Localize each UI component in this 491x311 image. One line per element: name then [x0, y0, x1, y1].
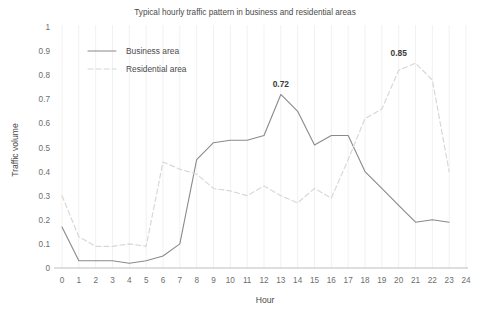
legend-label: Business area — [126, 46, 179, 56]
x-tick-label: 19 — [377, 276, 387, 285]
x-tick-label: 6 — [161, 276, 166, 285]
x-tick-label: 3 — [110, 276, 115, 285]
x-tick-label: 16 — [327, 276, 337, 285]
y-tick-label: 0 — [45, 264, 50, 273]
x-tick-label: 4 — [127, 276, 132, 285]
y-tick-label: 0.5 — [39, 144, 51, 153]
series-lines — [62, 63, 449, 263]
x-tick-label: 17 — [344, 276, 354, 285]
x-tick-label: 10 — [226, 276, 236, 285]
traffic-line-chart: Typical hourly traffic pattern in busine… — [0, 0, 491, 311]
legend-label: Residential area — [126, 64, 187, 74]
y-tick-label: 0.8 — [39, 71, 51, 80]
x-tick-label: 1 — [77, 276, 82, 285]
series-line-business-area — [62, 94, 449, 263]
y-tick-label: 1 — [45, 23, 50, 32]
chart-title: Typical hourly traffic pattern in busine… — [134, 8, 356, 17]
x-axis-ticks: 0123456789101112131415161718192021222324 — [60, 276, 471, 285]
x-tick-label: 9 — [211, 276, 216, 285]
vertical-gridlines — [62, 25, 466, 268]
data-point-annotation: 0.85 — [391, 48, 408, 58]
y-tick-label: 0.7 — [39, 95, 51, 104]
y-tick-label: 0.2 — [39, 216, 51, 225]
data-annotations: 0.720.85 — [273, 48, 407, 89]
y-axis-label: Traffic volume — [10, 123, 20, 177]
x-tick-label: 14 — [293, 276, 303, 285]
x-tick-label: 21 — [411, 276, 421, 285]
x-tick-label: 8 — [194, 276, 199, 285]
y-tick-label: 0.3 — [39, 192, 51, 201]
y-axis-ticks: 00.10.20.30.40.50.60.70.80.91 — [39, 23, 51, 273]
x-tick-label: 7 — [178, 276, 183, 285]
data-point-annotation: 0.72 — [273, 79, 290, 89]
x-tick-label: 11 — [243, 276, 252, 285]
x-tick-label: 24 — [461, 276, 471, 285]
chart-legend: Business areaResidential area — [88, 46, 187, 74]
x-tick-label: 5 — [144, 276, 149, 285]
x-tick-label: 13 — [276, 276, 286, 285]
x-tick-label: 12 — [259, 276, 269, 285]
x-tick-label: 18 — [360, 276, 370, 285]
x-tick-label: 20 — [394, 276, 404, 285]
x-tick-label: 22 — [428, 276, 438, 285]
x-tick-label: 15 — [310, 276, 320, 285]
x-axis-label: Hour — [256, 295, 275, 305]
x-tick-label: 0 — [60, 276, 65, 285]
y-tick-label: 0.9 — [39, 47, 51, 56]
series-line-residential-area — [62, 63, 449, 246]
y-tick-label: 0.1 — [39, 240, 51, 249]
chart-container: Typical hourly traffic pattern in busine… — [0, 0, 491, 311]
x-tick-label: 23 — [445, 276, 455, 285]
y-tick-label: 0.6 — [39, 119, 51, 128]
x-tick-label: 2 — [93, 276, 98, 285]
y-tick-label: 0.4 — [39, 168, 51, 177]
